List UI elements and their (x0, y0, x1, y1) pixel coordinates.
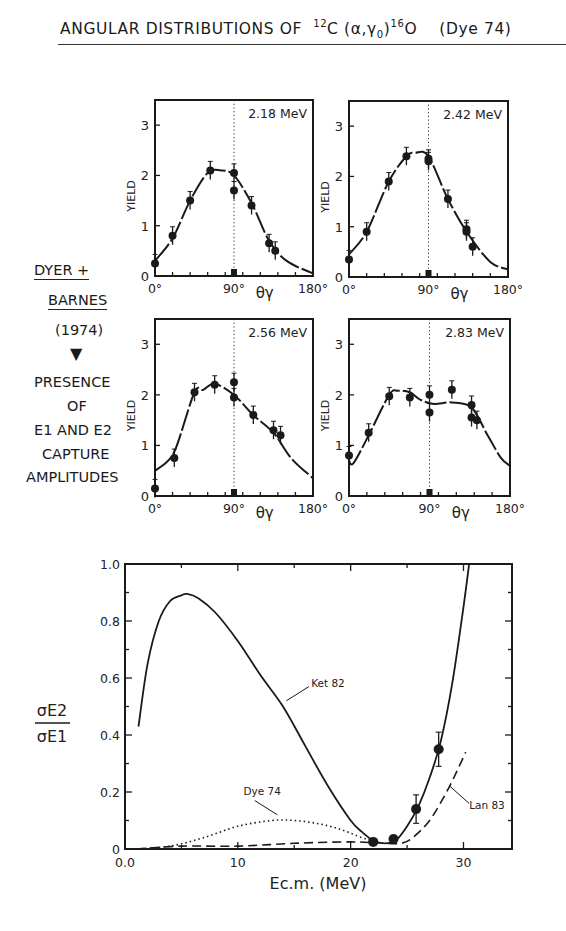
y-axis-label: YIELD (125, 400, 138, 433)
data-point (368, 837, 378, 847)
data-point (462, 228, 470, 236)
energy-label: 2.42 MeV (443, 107, 502, 122)
series-ket-82 (139, 564, 470, 843)
angular-panel-2: 01230°90°180°θγYIELD2.42 MeV (319, 101, 523, 303)
annotation-lan-83: Lan 83 (469, 799, 505, 811)
data-point (448, 386, 456, 394)
marker-90deg (231, 489, 237, 496)
x-axis-label: θγ (256, 504, 274, 522)
angular-panel-1: 01230°90°180°θγYIELD2.18 MeV (125, 100, 328, 302)
y-tick-label: 0.2 (100, 785, 120, 800)
data-point (277, 431, 285, 439)
data-point (249, 411, 257, 419)
energy-label: 2.83 MeV (445, 325, 504, 340)
x-axis-label: θγ (450, 285, 468, 303)
y-tick-label: 0.4 (100, 728, 120, 743)
data-point (426, 391, 434, 399)
annotation-ket-82: Ket 82 (311, 677, 345, 689)
data-point (434, 744, 444, 754)
data-point (186, 197, 194, 205)
series-dye-74 (136, 820, 373, 849)
data-point (469, 243, 477, 251)
figure-plots: 01230°90°180°θγYIELD2.18 MeV01230°90°180… (0, 0, 566, 931)
y-tick-label: 1 (141, 438, 149, 453)
data-point (468, 401, 476, 409)
y-axis-label: YIELD (125, 180, 138, 213)
x-tick-label: 90° (418, 501, 440, 516)
x-tick-label: 180° (493, 282, 523, 297)
data-point (411, 804, 421, 814)
data-point (345, 452, 353, 460)
x-tick-label: 0.0 (115, 855, 135, 870)
data-point (345, 255, 353, 263)
data-point (271, 247, 279, 255)
x-tick-label: 0° (148, 501, 162, 516)
data-point (473, 416, 481, 424)
data-point (248, 202, 256, 210)
y-tick-label: 0.6 (100, 671, 120, 686)
y-axis-label: YIELD (319, 181, 332, 214)
data-point (402, 152, 410, 160)
x-tick-label: 0° (148, 281, 162, 296)
data-point (169, 232, 177, 240)
data-point (230, 378, 238, 386)
y-tick-label: 2 (335, 388, 343, 403)
data-point (426, 409, 434, 417)
x-tick-label: 180° (495, 501, 525, 516)
x-tick-label: 90° (417, 282, 439, 297)
y-tick-label: 1 (335, 438, 343, 453)
ratio-chart: 00.20.40.60.81.00.0102030Ec.m. (MeV)σE2σ… (35, 557, 512, 893)
data-point (425, 157, 433, 165)
x-tick-label: 180° (298, 281, 328, 296)
data-point (270, 426, 278, 434)
data-point (170, 454, 178, 462)
y-tick-label: 3 (335, 337, 343, 352)
x-axis-label: Ec.m. (MeV) (270, 874, 367, 893)
x-tick-label: 20 (343, 855, 359, 870)
angular-panel-3: 01230°90°180°θγYIELD2.56 MeV (125, 319, 328, 522)
y-tick-label: 2 (141, 168, 149, 183)
marker-90deg (426, 270, 432, 277)
y-axis-label: YIELD (319, 400, 332, 433)
energy-label: 2.18 MeV (248, 106, 307, 121)
chart-frame (125, 564, 512, 849)
y-tick-label: 2 (335, 169, 343, 184)
data-point (191, 388, 199, 396)
y-tick-label: 0.8 (100, 614, 120, 629)
x-tick-label: 180° (298, 501, 328, 516)
data-point (365, 429, 373, 437)
x-tick-label: 0° (342, 282, 356, 297)
data-point (230, 393, 238, 401)
x-axis-label: θγ (256, 284, 274, 302)
y-tick-label: 1.0 (100, 557, 120, 572)
marker-90deg (427, 489, 433, 496)
data-point (151, 484, 159, 492)
data-point (385, 392, 393, 400)
data-point (230, 169, 238, 177)
annotation-arrow (255, 801, 278, 815)
y-axis-label-numerator: σE2 (37, 701, 67, 720)
data-point (206, 166, 214, 174)
data-point (406, 393, 414, 401)
annotation-dye-74: Dye 74 (243, 785, 281, 797)
data-point (363, 228, 371, 236)
y-tick-label: 3 (141, 118, 149, 133)
data-point (230, 187, 238, 195)
angular-panel-4: 01230°90°180°θγYIELD2.83 MeV (319, 319, 525, 522)
y-tick-label: 3 (335, 119, 343, 134)
y-axis-label-denominator: σE1 (37, 727, 67, 746)
y-tick-label: 1 (335, 220, 343, 235)
x-tick-label: 10 (230, 855, 246, 870)
data-point (265, 239, 273, 247)
annotation-arrow (450, 786, 469, 803)
x-axis-label: θγ (452, 504, 470, 522)
data-point (389, 834, 399, 844)
y-tick-label: 1 (141, 219, 149, 234)
data-point (211, 381, 219, 389)
data-point (151, 259, 159, 267)
energy-label: 2.56 MeV (248, 325, 307, 340)
y-tick-label: 2 (141, 388, 149, 403)
data-point (385, 177, 393, 185)
marker-90deg (231, 269, 237, 276)
x-tick-label: 30 (456, 855, 472, 870)
